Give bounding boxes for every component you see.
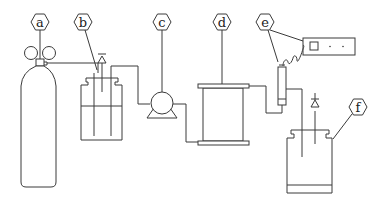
sensor-tube	[278, 65, 286, 105]
label-e: e	[256, 14, 274, 30]
leader-b	[85, 30, 97, 70]
svg-text:a: a	[36, 15, 44, 30]
pipe-e-f	[286, 89, 302, 157]
svg-text:b: b	[79, 15, 87, 30]
label-d: d	[213, 14, 231, 30]
pipe-d-e	[249, 86, 282, 113]
pipe-c-d	[173, 104, 198, 142]
pump-icon	[151, 92, 173, 114]
feed-bottle	[81, 54, 122, 140]
membrane-module	[198, 84, 249, 145]
label-b: b	[74, 14, 92, 30]
svg-text:c: c	[158, 15, 165, 30]
meter-box	[303, 38, 355, 55]
svg-text:e: e	[261, 15, 269, 30]
valve-f-icon	[311, 100, 319, 107]
gauge-left-icon	[25, 47, 38, 60]
svg-text:d: d	[218, 15, 226, 30]
process-diagram: a b c d	[0, 0, 386, 204]
leader-f	[333, 114, 352, 139]
pipe-a-b	[47, 63, 98, 73]
label-a: a	[31, 14, 49, 30]
gauge-right-icon	[43, 47, 56, 60]
leader-e-sensor	[268, 30, 278, 62]
label-f: f	[349, 99, 367, 115]
cable-coil	[283, 45, 304, 66]
pump	[147, 92, 177, 118]
valve-b-icon	[98, 56, 106, 63]
gas-cylinder	[21, 47, 56, 188]
collection-bottle	[287, 93, 332, 193]
label-c: c	[153, 14, 171, 30]
sensor-meter	[283, 38, 355, 66]
leader-e-meter	[270, 30, 303, 41]
